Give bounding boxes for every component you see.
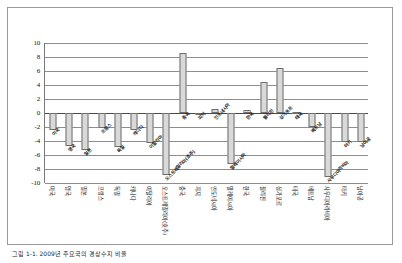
bar	[276, 68, 283, 113]
x-tick-label: 말레이시아	[227, 186, 233, 211]
x-tick-label: 남아공	[357, 186, 363, 201]
x-label-slot: 남아공	[352, 186, 368, 244]
x-tick-label: 캐나다	[130, 186, 136, 201]
y-tick-label: -10	[8, 180, 40, 187]
x-tick-label: 이탈리아	[146, 186, 152, 206]
x-tick-label: 태국	[292, 186, 298, 196]
bar-slot: 말레이시아	[223, 43, 239, 183]
bar	[260, 82, 267, 114]
x-label-slot: 필리핀	[255, 186, 271, 244]
x-label-slot: 싱가포르	[271, 186, 287, 244]
y-tick-label: -6	[8, 152, 40, 159]
x-label-slot: 베트남	[303, 186, 319, 244]
x-tick-label: 영국	[65, 186, 71, 196]
y-tick-label: -4	[8, 138, 40, 145]
x-label-slot: 캐나다	[125, 186, 141, 244]
x-tick-label: 필리핀	[260, 186, 266, 201]
x-label-slot: 말레이시아	[222, 186, 238, 244]
bar-slot: 미국	[45, 43, 61, 183]
bar-slot: 한국	[239, 43, 255, 183]
bar-slot: 필리핀	[256, 43, 272, 183]
x-tick-label: 중국	[179, 186, 185, 196]
x-tick-label: 인도네시아	[211, 186, 217, 211]
bar	[357, 113, 364, 142]
x-label-slot: 이탈리아	[141, 186, 157, 244]
bar	[147, 113, 154, 143]
bar	[325, 113, 332, 177]
x-label-slot: 터키	[336, 186, 352, 244]
bar-slot: 독일	[110, 43, 126, 183]
bar-slot: 영국	[61, 43, 77, 183]
x-label-slot: 인도네시아	[206, 186, 222, 244]
plot-area: 미국영국일본프랑스독일캐나다이탈리아오스트레일리아(호주)중국피지인도네시아말레…	[44, 43, 368, 183]
y-tick-label: 2	[8, 96, 40, 103]
bar-slot: 중국	[175, 43, 191, 183]
x-tick-label: 프랑스	[98, 186, 104, 201]
bar-slot: 캐나다	[126, 43, 142, 183]
y-tick-label: -8	[8, 166, 40, 173]
figure-caption: 그림 1-1. 2009년 주요국의 경상수지 비율	[12, 250, 127, 258]
bar-slot: 이탈리아	[142, 43, 158, 183]
figure-page: 1086420-2-4-6-8-10 미국영국일본프랑스독일캐나다이탈리아오스트…	[0, 0, 402, 263]
x-tick-label: 일본	[81, 186, 87, 196]
y-tick-label: 6	[8, 68, 40, 75]
figure-frame: 1086420-2-4-6-8-10 미국영국일본프랑스독일캐나다이탈리아오스트…	[7, 7, 393, 245]
y-tick-label: 0	[8, 110, 40, 117]
bar	[66, 113, 73, 146]
x-label-slot: 오스트레일리아(호주)	[157, 186, 173, 244]
x-tick-label: 한국	[243, 186, 249, 196]
bar-slot: 베트남	[304, 43, 320, 183]
x-label-slot: 피지	[190, 186, 206, 244]
y-tick-label: 10	[8, 40, 40, 47]
y-tick-label: 8	[8, 54, 40, 61]
bar-slot: 태국	[288, 43, 304, 183]
x-tick-label: 싱가포르	[276, 186, 282, 206]
bar	[341, 113, 348, 142]
y-tick-label: 4	[8, 82, 40, 89]
bar	[163, 113, 170, 175]
x-tick-label: 사우디아라비아	[324, 186, 330, 221]
x-label-slot: 사우디아라비아	[319, 186, 335, 244]
bar-slot: 일본	[77, 43, 93, 183]
x-label-slot: 일본	[76, 186, 92, 244]
x-label-slot: 영국	[60, 186, 76, 244]
bar-slot: 프랑스	[94, 43, 110, 183]
bar	[114, 113, 121, 147]
bar	[179, 53, 186, 113]
x-label-slot: 미국	[44, 186, 60, 244]
bar-slot: 오스트레일리아(호주)	[158, 43, 174, 183]
x-label-slot: 태국	[287, 186, 303, 244]
x-tick-label: 오스트레일리아(호주)	[162, 186, 168, 235]
bar	[228, 113, 235, 164]
x-tick-label: 미국	[49, 186, 55, 196]
bar-slot: 사우디아라비아	[320, 43, 336, 183]
x-label-slot: 한국	[238, 186, 254, 244]
bar-slot: 터키	[337, 43, 353, 183]
y-tick-label: -2	[8, 124, 40, 131]
x-tick-label: 피지	[195, 186, 201, 196]
gridline	[45, 183, 368, 184]
x-tick-label: 터키	[341, 186, 347, 196]
x-label-slot: 프랑스	[93, 186, 109, 244]
x-label-slot: 독일	[109, 186, 125, 244]
bar-slot: 남아공	[353, 43, 369, 183]
bar-slot: 싱가포르	[272, 43, 288, 183]
x-tick-label: 독일	[114, 186, 120, 196]
bar-series: 미국영국일본프랑스독일캐나다이탈리아오스트레일리아(호주)중국피지인도네시아말레…	[45, 43, 368, 183]
bar-slot: 피지	[191, 43, 207, 183]
bar-slot: 인도네시아	[207, 43, 223, 183]
x-label-slot: 중국	[174, 186, 190, 244]
x-axis-category-labels: 미국영국일본프랑스독일캐나다이탈리아오스트레일리아(호주)중국피지인도네시아말레…	[44, 186, 368, 244]
bar	[82, 113, 89, 150]
x-tick-label: 베트남	[308, 186, 314, 201]
